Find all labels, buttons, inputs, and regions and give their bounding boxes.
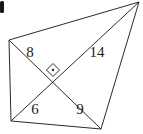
edge-bottom-cd [11, 121, 101, 129]
right-angle-dot [52, 69, 54, 71]
edge-left-da [9, 40, 11, 121]
geometry-figure: 8 14 6 9 [0, 0, 143, 134]
diagonal-ac [9, 40, 101, 129]
diagonal-db [11, 2, 139, 121]
geometry-diagram-canvas: 8 14 6 9 [0, 0, 143, 134]
segment-label-14: 14 [90, 44, 106, 60]
right-angle-marker [47, 64, 60, 77]
left-edge-artifact [0, 1, 4, 13]
segment-label-9: 9 [76, 101, 84, 117]
segment-label-8: 8 [26, 44, 34, 60]
edge-right-bc [101, 2, 139, 129]
edge-top-ab [9, 2, 139, 40]
segment-label-6: 6 [31, 101, 39, 117]
